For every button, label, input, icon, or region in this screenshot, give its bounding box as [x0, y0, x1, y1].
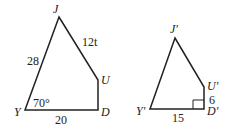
vertex-d-label: D — [100, 105, 110, 119]
angle-y-label: 70° — [33, 96, 50, 110]
side-ud-prime-label: 6 — [209, 93, 215, 107]
vertex-j-label: J — [53, 2, 59, 16]
vertex-y-label: Y — [14, 105, 22, 119]
side-ju-label: 12t — [82, 35, 98, 49]
side-yd-label: 20 — [55, 113, 67, 127]
vertex-u-label: U — [101, 73, 111, 87]
vertex-u-prime-label: U′ — [207, 79, 219, 93]
similar-quadrilaterals-diagram: J U D Y 28 12t 20 70° J′ U′ D′ Y′ 6 15 — [0, 0, 230, 128]
side-yd-prime-label: 15 — [172, 111, 184, 125]
quadrilateral-judy-prime — [150, 38, 204, 109]
right-angle-marker — [193, 100, 204, 109]
vertex-j-prime-label: J′ — [170, 22, 178, 36]
side-yj-label: 28 — [27, 54, 39, 68]
vertex-y-prime-label: Y′ — [136, 104, 146, 118]
